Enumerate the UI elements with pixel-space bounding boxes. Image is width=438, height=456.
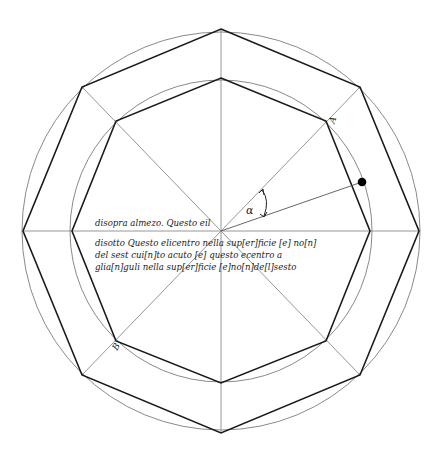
text-below-line-2: del sest cui[n]to acuto [e] questo ecent… [95,249,282,261]
angle-arrow-top [259,189,264,195]
radius-to-dot [221,182,362,231]
text-below-line-3: glia[n]guli nella sup[er]ficie [e]no[n]d… [95,261,296,273]
text-above-line: disopra almezo. Questo eil [95,217,210,229]
text-below-line-1: disotto Questo elicentro nella sup[er]fi… [95,237,316,249]
angle-arrow-bottom [260,212,267,217]
octagon-diagram: α A B [0,0,438,456]
point-dot [358,178,367,187]
angle-label: α [246,204,254,217]
